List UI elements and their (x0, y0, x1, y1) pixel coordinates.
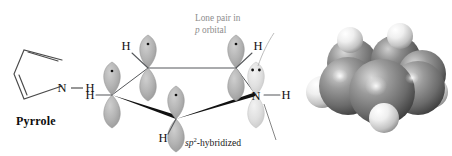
electron-dot (111, 70, 114, 73)
orbital-diagram-panel: H H H H N H Lone pair in p orbital sp2-h… (88, 0, 316, 156)
specular-highlight-right (405, 72, 419, 84)
hydrogen-label-top-right: H (253, 39, 262, 53)
space-filling-model-panel (300, 0, 452, 156)
double-bond-inner-top (28, 52, 58, 61)
lone-pair-callout-line1: Lone pair in (195, 13, 240, 23)
nitrogen-hydrogen-label: H (281, 88, 290, 102)
electron-dot (147, 43, 150, 46)
pyrrole-skeletal-svg: N H (0, 0, 100, 120)
lone-pair-callout: Lone pair in p orbital (195, 12, 240, 37)
double-bond-inner-left (19, 75, 27, 95)
lone-pair-dot-2 (258, 69, 261, 72)
pyrrole-2d-structure-panel: N H Pyrrole (0, 0, 100, 156)
pyrrole-ring-bonds (14, 50, 62, 99)
figure-root: N H Pyrrole (0, 0, 452, 156)
hydrogen-sphere-top-right (387, 23, 413, 49)
electron-dot (175, 94, 178, 97)
space-filling-model-svg (300, 0, 452, 156)
hybridization-leader-line (264, 104, 276, 140)
compound-name-label: Pyrrole (16, 115, 56, 127)
lone-pair-dot-1 (251, 69, 254, 72)
lone-pair-callout-line2: orbital (200, 25, 227, 35)
cpk-molecule (306, 23, 448, 133)
nitrogen-atom-label: N (57, 81, 66, 95)
hydrogen-label-left: H (85, 88, 94, 102)
specular-highlight-left (332, 69, 348, 83)
hydrogen-sphere-front (369, 103, 399, 133)
electron-dot (235, 43, 238, 46)
hybridization-callout: sp2-hybridized (185, 137, 241, 148)
hybridization-italic: sp (185, 137, 194, 148)
specular-highlight-center (365, 76, 387, 96)
hybridization-rest: -hybridized (197, 137, 241, 148)
hydrogen-label-top-left: H (121, 39, 130, 53)
hydrogen-sphere-top-left (337, 27, 363, 53)
nitrogen-label: N (251, 89, 260, 103)
hydrogen-label-bottom: H (158, 131, 167, 145)
